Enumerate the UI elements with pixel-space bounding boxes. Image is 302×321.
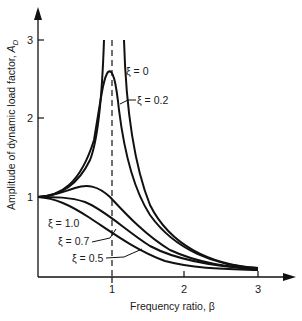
label-xi-1.0: ξ = 1.0: [48, 217, 79, 229]
y-tick-label-2: 2: [27, 112, 33, 124]
x-axis-label: Frequency ratio, β: [130, 300, 215, 312]
x-tick-label-2: 2: [181, 283, 187, 295]
x-axis-arrow-icon: [283, 273, 296, 281]
y-axis-label-main: Amplitude of dynamic load factor,: [5, 52, 17, 210]
svg-text:Amplitude of dynamic load fact: Amplitude of dynamic load factor, AD: [5, 39, 20, 210]
y-axis-label-symbol: A: [5, 45, 17, 53]
curve-xi-0-left: [38, 40, 104, 197]
y-axis-label: Amplitude of dynamic load factor, AD: [5, 39, 20, 210]
label-xi-0.5: ξ = 0.5: [72, 252, 103, 264]
label-xi-0.7: ξ = 0.7: [58, 235, 89, 247]
y-tick-label-3: 3: [27, 34, 33, 46]
x-tick-label-1: 1: [109, 283, 115, 295]
x-tick-label-3: 3: [255, 283, 261, 295]
y-axis-arrow-icon: [34, 7, 42, 20]
y-axis-label-subscript: D: [11, 39, 20, 45]
label-xi-0: ξ = 0: [126, 65, 149, 77]
label-xi-0.2: ξ = 0.2: [137, 94, 168, 106]
dynamic-load-factor-chart: 3 2 1 1 2 3 ξ = 0 ξ = 0.2 ξ = 1.0 ξ = 0.…: [0, 0, 302, 321]
y-tick-label-1: 1: [27, 191, 33, 203]
